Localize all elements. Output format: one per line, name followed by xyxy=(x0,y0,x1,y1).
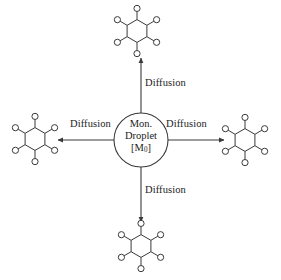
molecule-top xyxy=(114,5,159,56)
diffusion-label-right: Diffusion xyxy=(166,118,207,129)
monomer-droplet-label: Mon. Droplet [M0] xyxy=(113,118,169,156)
droplet-label-line1: Mon. xyxy=(113,118,169,130)
droplet-conc-prefix: [M xyxy=(131,142,144,153)
molecule-left xyxy=(12,113,57,164)
droplet-label-line2: Droplet xyxy=(113,130,169,142)
diffusion-label-up: Diffusion xyxy=(145,77,186,88)
droplet-conc-suffix: ] xyxy=(147,142,151,153)
diffusion-diagram: Mon. Droplet [M0] Diffusion Diffusion Di… xyxy=(0,0,281,280)
diffusion-label-down: Diffusion xyxy=(145,184,186,195)
molecule-right xyxy=(222,114,267,165)
molecule-bottom xyxy=(118,220,163,271)
diffusion-label-left: Diffusion xyxy=(70,118,111,129)
droplet-label-line3: [M0] xyxy=(113,142,169,156)
